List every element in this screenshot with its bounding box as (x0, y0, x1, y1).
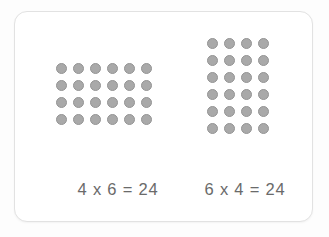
array-dot (90, 63, 101, 74)
array-dot (141, 114, 152, 125)
array-dot (207, 106, 218, 117)
array-dot (258, 38, 269, 49)
array-dot (124, 63, 135, 74)
array-dot (241, 55, 252, 66)
array-dot (224, 123, 235, 134)
array-dot (73, 80, 84, 91)
array-dot (224, 38, 235, 49)
array-dot (224, 106, 235, 117)
array-dot (90, 97, 101, 108)
array-dot (241, 123, 252, 134)
array-dot (73, 114, 84, 125)
array-dot (56, 97, 67, 108)
array-dot (207, 123, 218, 134)
array-dot (56, 114, 67, 125)
dot-grid-4x6 (53, 60, 155, 128)
array-dot (241, 72, 252, 83)
array-dot (207, 72, 218, 83)
array-dot (107, 80, 118, 91)
array-dot (258, 55, 269, 66)
equation-label-right: 6 x 4 = 24 (190, 180, 300, 199)
array-dot (56, 63, 67, 74)
array-dot (224, 89, 235, 100)
array-dot (141, 63, 152, 74)
array-dot (258, 89, 269, 100)
multiplication-array-card: 4 x 6 = 24 6 x 4 = 24 (14, 11, 313, 222)
flashcard-stage: 4 x 6 = 24 6 x 4 = 24 (0, 0, 329, 237)
equation-label-left: 4 x 6 = 24 (63, 180, 173, 199)
array-dot (90, 114, 101, 125)
array-group-right (204, 35, 272, 137)
array-dot (141, 80, 152, 91)
array-dot (224, 55, 235, 66)
array-dot (207, 89, 218, 100)
array-dot (241, 89, 252, 100)
array-dot (90, 80, 101, 91)
array-dot (107, 63, 118, 74)
array-dot (73, 63, 84, 74)
array-dot (241, 38, 252, 49)
array-dot (224, 72, 235, 83)
array-dot (107, 97, 118, 108)
array-dot (258, 106, 269, 117)
array-dot (107, 114, 118, 125)
array-dot (124, 97, 135, 108)
array-dot (241, 106, 252, 117)
array-dot (124, 80, 135, 91)
array-group-left (53, 60, 155, 128)
array-dot (207, 55, 218, 66)
array-dot (56, 80, 67, 91)
array-dot (73, 97, 84, 108)
array-dot (258, 72, 269, 83)
array-dot (141, 97, 152, 108)
array-dot (258, 123, 269, 134)
array-dot (207, 38, 218, 49)
dot-grid-6x4 (204, 35, 272, 137)
array-dot (124, 114, 135, 125)
